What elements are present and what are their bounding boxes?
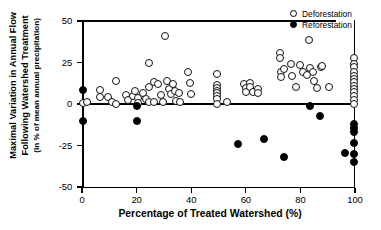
data-point-deforestation: [276, 54, 284, 62]
data-point-deforestation: [161, 32, 169, 40]
data-point-deforestation: [254, 89, 262, 97]
legend-label-reforestation: Reforestation: [302, 20, 352, 30]
data-point-deforestation: [213, 100, 221, 108]
x-ticklabel-20: 20: [117, 194, 157, 205]
data-point-deforestation: [145, 59, 153, 67]
y-ticklabel-50: 50: [62, 15, 72, 26]
data-point-deforestation: [292, 83, 300, 91]
data-point-deforestation: [223, 98, 231, 106]
data-point-deforestation: [305, 36, 313, 44]
data-point-reforestation: [79, 86, 87, 94]
data-point-deforestation: [350, 100, 358, 108]
data-point-deforestation: [150, 98, 158, 106]
data-point-deforestation: [112, 100, 120, 108]
x-tick-60: [245, 188, 246, 193]
legend-item-reforestation: Reforestation: [290, 19, 352, 30]
data-point-deforestation: [176, 98, 184, 106]
data-point-deforestation: [213, 70, 221, 78]
y-axis-title-line3: (in % of mean annual precipitation): [32, 18, 41, 152]
data-point-deforestation: [288, 72, 296, 80]
y-axis-title-line1: Maximal Variation in Annual Flow: [8, 12, 18, 159]
data-point-reforestation: [350, 139, 358, 147]
data-point-deforestation: [83, 98, 91, 106]
data-point-deforestation: [325, 83, 333, 91]
data-point-reforestation: [133, 117, 141, 125]
y-ticklabel-0: 0: [67, 98, 72, 109]
x-ticklabel-60: 60: [226, 194, 266, 205]
open-circle-icon: [290, 10, 297, 17]
data-point-deforestation: [186, 79, 194, 87]
data-point-reforestation: [316, 112, 324, 120]
chart-legend: Deforestation Reforestation: [290, 8, 352, 30]
y-axis-title: Maximal Variation in Annual Flow Followi…: [8, 0, 43, 185]
data-point-deforestation: [187, 90, 195, 98]
x-ticklabel-40: 40: [171, 194, 211, 205]
data-point-deforestation: [287, 60, 295, 68]
data-point-deforestation: [184, 68, 192, 76]
y-ticklabel-25: 25: [62, 57, 72, 68]
data-point-deforestation: [154, 80, 162, 88]
x-tick-80: [300, 188, 301, 193]
data-point-reforestation: [341, 149, 349, 157]
data-point-reforestation: [260, 135, 268, 143]
x-tick-40: [191, 188, 192, 193]
data-point-deforestation: [175, 89, 183, 97]
data-point-deforestation: [112, 77, 120, 85]
data-point-deforestation: [159, 98, 167, 106]
data-point-reforestation: [280, 153, 288, 161]
filled-circle-icon: [290, 21, 297, 28]
data-point-reforestation: [133, 102, 141, 110]
legend-item-deforestation: Deforestation: [290, 8, 352, 19]
y-ticklabel--25: -25: [59, 140, 72, 151]
data-point-reforestation: [350, 128, 358, 136]
data-point-reforestation: [306, 102, 314, 110]
data-point-reforestation: [350, 150, 358, 158]
plot-area: [82, 21, 355, 187]
x-ticklabel-100: 100: [335, 194, 375, 205]
x-tick-20: [136, 188, 137, 193]
legend-label-deforestation: Deforestation: [302, 9, 352, 19]
y-axis-title-line2: Following Watershed Treatment: [19, 15, 29, 155]
data-point-deforestation: [313, 84, 321, 92]
data-point-reforestation: [234, 140, 242, 148]
data-point-reforestation: [79, 117, 87, 125]
x-axis-title: Percentage of Treated Watershed (%): [60, 208, 360, 219]
data-point-deforestation: [277, 73, 285, 81]
x-ticklabel-0: 0: [62, 194, 102, 205]
x-ticklabel-80: 80: [280, 194, 320, 205]
y-ticklabel--50: -50: [59, 181, 72, 192]
chart-page: 50250-25-50 020406080100 Maximal Variati…: [0, 0, 381, 230]
data-point-deforestation: [96, 93, 104, 101]
data-point-deforestation: [318, 62, 326, 70]
x-tick-100: [354, 188, 355, 193]
data-point-reforestation: [350, 158, 358, 166]
x-tick-0: [81, 188, 82, 193]
data-point-deforestation: [309, 68, 317, 76]
